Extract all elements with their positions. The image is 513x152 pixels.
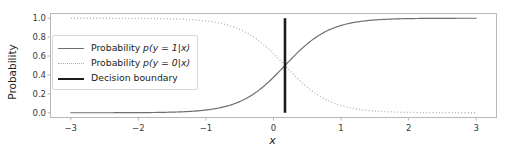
legend-item-p1: Probability p(y = 1|x): [58, 40, 190, 55]
y-axis-label: Probability: [6, 27, 18, 117]
x-tick-label: 1: [338, 123, 343, 133]
legend-swatch-dotted-icon: [58, 57, 84, 69]
y-tick-label: 0.0: [18, 108, 46, 118]
y-tick-label: 0.4: [18, 70, 46, 80]
y-tick-label: 1.0: [18, 13, 46, 23]
legend-label-p0-prefix: Probability: [91, 57, 143, 68]
x-axis-label: x: [0, 134, 513, 147]
legend-label-p1-prefix: Probability: [91, 42, 143, 53]
legend-label-boundary: Decision boundary: [91, 73, 178, 82]
figure-canvas: −3−2−10123 0.00.20.40.60.81.0 Probabilit…: [0, 0, 513, 152]
legend-label-p0-math: p(y = 0|x): [143, 57, 190, 68]
y-tick-label: 0.6: [18, 51, 46, 61]
x-axis-label-text: x: [269, 134, 276, 147]
legend-item-boundary: Decision boundary: [58, 70, 190, 85]
y-tick-label: 0.8: [18, 32, 46, 42]
x-tick-label: 3: [474, 123, 479, 133]
legend-swatch-solid-thick-icon: [58, 72, 84, 84]
legend-label-p1: Probability p(y = 1|x): [91, 43, 190, 52]
x-tick-label: −3: [65, 123, 78, 133]
legend-label-p0: Probability p(y = 0|x): [91, 58, 190, 67]
x-tick-label: 0: [271, 123, 276, 133]
legend-label-p1-math: p(y = 1|x): [143, 42, 190, 53]
y-tick-label: 0.2: [18, 89, 46, 99]
legend-swatch-solid-thin-icon: [58, 42, 84, 54]
legend-label-boundary-prefix: Decision boundary: [91, 72, 178, 83]
x-tick-label: −2: [132, 123, 145, 133]
chart-legend: Probability p(y = 1|x) Probability p(y =…: [52, 35, 198, 90]
x-tick-label: 2: [406, 123, 411, 133]
legend-item-p0: Probability p(y = 0|x): [58, 55, 190, 70]
x-tick-label: −1: [200, 123, 213, 133]
